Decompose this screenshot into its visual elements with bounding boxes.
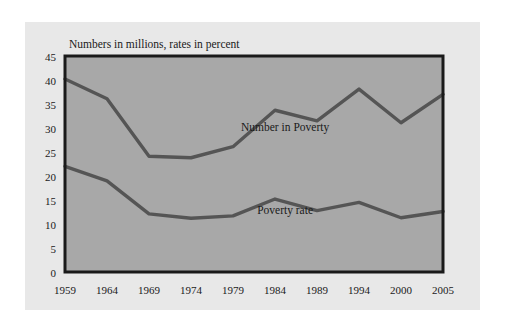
x-axis-tick-label: 1959: [54, 284, 77, 296]
y-axis-tick-label: 35: [45, 99, 57, 111]
x-axis-ticks: 1959196419691974197919841989199420002005: [54, 284, 455, 296]
x-axis-tick-label: 1989: [306, 284, 329, 296]
series-annotation-poverty-rate: Poverty rate: [257, 204, 313, 217]
x-axis-tick-label: 1964: [96, 284, 119, 296]
x-axis-tick-label: 1974: [180, 284, 203, 296]
chart-area: 051015202530354045 195919641969197419791…: [25, 22, 480, 310]
y-axis-ticks: 051015202530354045: [45, 51, 57, 279]
y-axis-tick-label: 10: [45, 219, 57, 231]
y-axis-tick-label: 30: [45, 123, 57, 135]
plot-background: [65, 56, 443, 272]
y-axis-tick-label: 0: [51, 267, 57, 279]
y-axis-tick-label: 20: [45, 171, 57, 183]
y-axis-tick-label: 15: [45, 195, 57, 207]
y-axis-tick-label: 5: [51, 243, 57, 255]
chart-title: Numbers in millions, rates in percent: [69, 38, 240, 51]
series-annotation-number-in-poverty: Number in Poverty: [241, 121, 329, 134]
x-axis-tick-label: 1979: [222, 284, 245, 296]
x-axis-tick-label: 1994: [348, 284, 371, 296]
figure-container: 051015202530354045 195919641969197419791…: [0, 0, 505, 328]
chart-panel: 051015202530354045 195919641969197419791…: [25, 22, 480, 310]
y-axis-tick-label: 45: [45, 51, 57, 63]
plot-background-rect: [65, 56, 443, 272]
y-axis-tick-label: 40: [45, 75, 57, 87]
x-axis-tick-label: 2005: [432, 284, 455, 296]
y-axis-tick-label: 25: [45, 147, 57, 159]
x-axis-tick-label: 2000: [390, 284, 413, 296]
chart-title-group: Numbers in millions, rates in percent: [69, 38, 240, 51]
poverty-line-chart: 051015202530354045 195919641969197419791…: [25, 22, 480, 310]
x-axis-tick-label: 1984: [264, 284, 287, 296]
x-axis-tick-label: 1969: [138, 284, 161, 296]
